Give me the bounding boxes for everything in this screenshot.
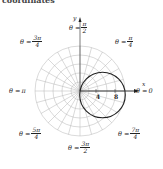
angle-label-3pi-over-2: θ = 3π2 — [68, 141, 90, 154]
angle-label-5pi-over-4: θ = 5π4 — [19, 127, 41, 140]
x-axis-label: x — [142, 80, 145, 87]
angle-label-3pi-over-4: θ = 3π4 — [20, 35, 42, 48]
axes — [79, 17, 140, 93]
tick-label-8: 8 — [114, 93, 118, 100]
angle-label-pi-over-2: θ = π2 — [69, 21, 87, 34]
angle-label-pi-over-4: θ = π4 — [115, 35, 133, 48]
fraction: π2 — [81, 21, 87, 34]
angle-label-7pi-over-4: θ = 7π4 — [118, 127, 140, 140]
tick-label-4: 4 — [96, 93, 100, 100]
angle-label-pi: θ = π — [9, 87, 26, 95]
y-axis-label: y — [73, 14, 76, 21]
angle-label-zero: θ = 0 — [136, 87, 153, 95]
